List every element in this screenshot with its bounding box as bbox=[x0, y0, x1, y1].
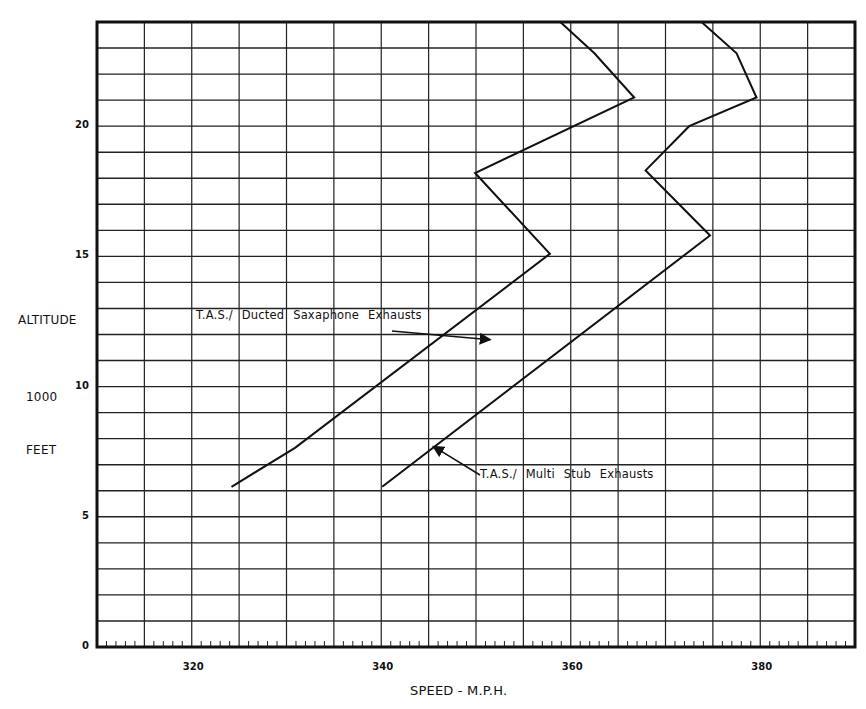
annotation-ducted: T.A.S./ Ducted Saxaphone Exhausts bbox=[196, 308, 422, 322]
altitude-speed-chart bbox=[0, 0, 866, 709]
x-tick-label: 380 bbox=[751, 661, 772, 672]
y-axis-title-1000: 1000 bbox=[26, 390, 57, 404]
annotation-multi-stub: T.A.S./ Multi Stub Exhausts bbox=[480, 467, 654, 481]
x-tick-label: 320 bbox=[183, 661, 204, 672]
y-axis-title-altitude: ALTITUDE bbox=[18, 313, 77, 327]
y-tick-label: 10 bbox=[75, 380, 89, 391]
arrow-multi-stub bbox=[433, 446, 480, 475]
y-tick-label: 15 bbox=[75, 249, 89, 260]
y-tick-label: 20 bbox=[75, 119, 89, 130]
x-axis-title: SPEED - M.P.H. bbox=[410, 683, 507, 698]
y-axis-title-feet: FEET bbox=[26, 443, 56, 457]
series-line-multi-stub bbox=[382, 22, 756, 487]
y-tick-label: 5 bbox=[82, 510, 89, 521]
y-tick-label: 0 bbox=[82, 640, 89, 651]
x-tick-label: 360 bbox=[562, 661, 583, 672]
series-line-ducted bbox=[232, 22, 635, 487]
x-tick-label: 340 bbox=[372, 661, 393, 672]
